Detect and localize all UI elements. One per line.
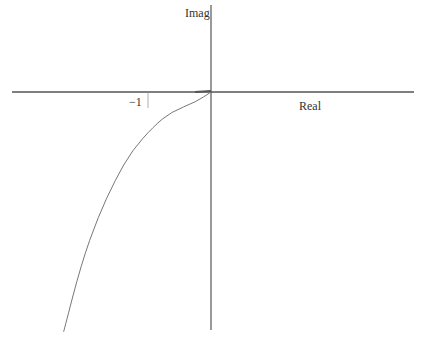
curve-near-origin (195, 91, 211, 92)
nyquist-plot (0, 0, 424, 343)
real-axis-label: Real (299, 99, 321, 114)
imag-axis-label: Imag (185, 6, 210, 21)
nyquist-curve (64, 92, 211, 332)
tick-label-neg1: −1 (129, 95, 142, 110)
